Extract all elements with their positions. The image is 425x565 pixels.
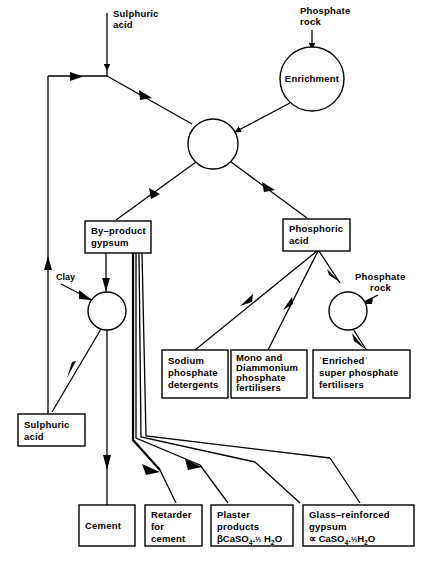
clay-mixer-circle bbox=[88, 292, 126, 330]
input-sulphuric-acid-top-label-line2: acid bbox=[113, 19, 133, 30]
plaster-formula-suffix: O bbox=[275, 533, 282, 544]
node-reactor bbox=[188, 119, 238, 169]
acidulation-circle bbox=[329, 292, 367, 330]
retarder-line2: for bbox=[151, 521, 164, 532]
grg-line1: Glass–reinforced bbox=[309, 509, 390, 520]
retarder-line1: Retarder bbox=[151, 509, 192, 520]
enriched-super-line2: super phosphate bbox=[319, 367, 399, 378]
mono-diammonium-line4: fertilisers bbox=[236, 382, 281, 393]
enriched-super-line1: ˈEnrichedˈ bbox=[319, 355, 368, 366]
plaster-formula-space: H bbox=[261, 533, 271, 544]
phosphoric-acid-line1: Phosphoric bbox=[289, 223, 343, 234]
input-phosphate-rock-mid-line1: Phosphate bbox=[355, 271, 405, 282]
grg-line2: gypsum bbox=[309, 521, 347, 532]
by-product-gypsum-line1: By–product bbox=[91, 225, 146, 236]
box-glass-reinforced-gypsum: Glass–reinforced gypsum ∝ CaSO4.½H2O bbox=[303, 505, 414, 546]
input-phosphate-rock-mid-line2: rock bbox=[370, 282, 391, 293]
sodium-phosphate-line2: phosphate bbox=[168, 367, 218, 378]
plaster-line2: products bbox=[217, 521, 259, 532]
box-sodium-phosphate-detergents: Sodium phosphate detergents bbox=[162, 350, 228, 398]
by-product-gypsum-line2: gypsum bbox=[91, 237, 129, 248]
sulphuric-acid-recycle-line1: Sulphuric bbox=[24, 419, 70, 430]
box-enriched-super-phosphate-fertilisers: ˈEnrichedˈ super phosphate fertilisers bbox=[313, 350, 410, 398]
input-phosphate-rock-top-label-line1: Phosphate bbox=[300, 5, 350, 16]
cement-label: Cement bbox=[85, 520, 122, 531]
box-phosphoric-acid: Phosphoric acid bbox=[283, 219, 350, 251]
plaster-formula-prefix: βCaSO bbox=[217, 533, 249, 544]
grg-formula-suffix: O bbox=[368, 533, 375, 544]
enrichment-label: Enrichment bbox=[285, 73, 340, 84]
box-sulphuric-acid-recycle: Sulphuric acid bbox=[18, 414, 85, 446]
box-by-product-gypsum: By–product gypsum bbox=[85, 221, 151, 253]
enriched-super-line3: fertilisers bbox=[319, 379, 364, 390]
input-sulphuric-acid-top-label-line1: Sulphuric bbox=[113, 8, 159, 19]
sodium-phosphate-line3: detergents bbox=[168, 379, 219, 390]
clay-label: Clay bbox=[56, 272, 75, 282]
sulphuric-acid-recycle-line2: acid bbox=[24, 431, 44, 442]
box-retarder-for-cement: Retarder for cement bbox=[145, 505, 202, 546]
reactor-circle bbox=[188, 119, 238, 169]
phosphoric-acid-line2: acid bbox=[289, 235, 309, 246]
input-phosphate-rock-top-label-line2: rock bbox=[300, 16, 321, 27]
box-mono-diammonium-phosphate-fertilisers: Mono and Diammonium phosphate fertiliser… bbox=[231, 350, 307, 398]
diagram-background bbox=[0, 0, 425, 565]
plaster-line1: Plaster bbox=[217, 509, 250, 520]
retarder-line3: cement bbox=[151, 533, 186, 544]
box-cement: Cement bbox=[79, 505, 135, 546]
box-plaster-products: Plaster products βCaSO4.½ H2O bbox=[211, 505, 293, 546]
node-enrichment: Enrichment bbox=[280, 47, 344, 111]
sodium-phosphate-line1: Sodium bbox=[168, 355, 204, 366]
grg-formula-prefix: ∝ CaSO bbox=[309, 533, 345, 544]
process-flow-diagram: Sulphuric acid Phosphate rock Enrichment… bbox=[0, 0, 425, 565]
